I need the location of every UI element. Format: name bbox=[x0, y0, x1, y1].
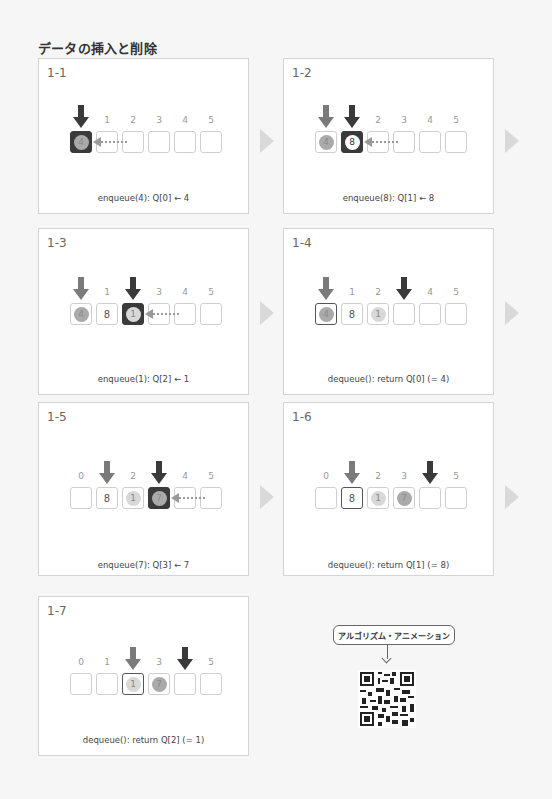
queue-cell: 8 bbox=[341, 131, 363, 153]
step-caption: dequeue(): return Q[2] (= 1) bbox=[39, 735, 248, 745]
queue-cell: 1 bbox=[367, 303, 389, 325]
tail-pointer-arrow-icon bbox=[70, 105, 92, 129]
queue-cell bbox=[200, 303, 222, 325]
head-pointer-arrow-icon bbox=[315, 277, 337, 301]
value-ball: 7 bbox=[152, 491, 167, 506]
queue-cell: 4 bbox=[315, 303, 337, 325]
cell-value: 8 bbox=[104, 493, 110, 504]
step-caption: enqueue(4): Q[0] ← 4 bbox=[39, 193, 248, 203]
queue-array: 011375 bbox=[39, 639, 248, 709]
step-caption: enqueue(1): Q[2] ← 1 bbox=[39, 374, 248, 384]
queue-cell: 1 bbox=[122, 303, 144, 325]
queue-cells: 011375 bbox=[70, 639, 226, 709]
index-label: 2 bbox=[367, 115, 389, 125]
queue-cell: 4 bbox=[70, 131, 92, 153]
value-ball: 1 bbox=[126, 307, 141, 322]
head-pointer-arrow-icon bbox=[70, 277, 92, 301]
queue-cell: 1 bbox=[122, 673, 144, 695]
step-id: 1-7 bbox=[47, 604, 67, 618]
value-ball: 4 bbox=[319, 307, 334, 322]
step-caption: dequeue(): return Q[0] (= 4) bbox=[284, 374, 493, 384]
queue-cell: 1 bbox=[367, 487, 389, 509]
cell-value: 8 bbox=[104, 309, 110, 320]
queue-cell: 8 bbox=[96, 303, 118, 325]
step-caption: enqueue(7): Q[3] ← 7 bbox=[39, 560, 248, 570]
queue-cell: 7 bbox=[148, 673, 170, 695]
queue-cell: 4 bbox=[70, 303, 92, 325]
index-label: 5 bbox=[445, 115, 467, 125]
queue-cell: 7 bbox=[148, 487, 170, 509]
step-id: 1-4 bbox=[292, 236, 312, 250]
tail-pointer-arrow-icon bbox=[122, 277, 144, 301]
qr-code[interactable] bbox=[358, 670, 416, 728]
queue-cells: 0821745 bbox=[70, 453, 226, 523]
insert-arrow-head-icon bbox=[93, 137, 101, 147]
value-ball: 4 bbox=[319, 135, 334, 150]
cell-value: 8 bbox=[349, 309, 355, 320]
index-label: 3 bbox=[148, 657, 170, 667]
step-id: 1-5 bbox=[47, 410, 67, 424]
insert-arrow-head-icon bbox=[171, 493, 179, 503]
tail-pointer-arrow-icon bbox=[341, 105, 363, 129]
step-panel: 1-34181345enqueue(1): Q[2] ← 1 bbox=[38, 228, 249, 395]
step-panel: 1-7011375dequeue(): return Q[2] (= 1) bbox=[38, 596, 249, 756]
value-ball: 8 bbox=[345, 135, 360, 150]
tail-pointer-arrow-icon bbox=[174, 647, 196, 671]
value-ball: 1 bbox=[371, 307, 386, 322]
queue-cell bbox=[445, 131, 467, 153]
index-label: 5 bbox=[200, 657, 222, 667]
index-label: 3 bbox=[393, 115, 415, 125]
queue-cell bbox=[174, 673, 196, 695]
head-pointer-arrow-icon bbox=[122, 647, 144, 671]
value-ball: 7 bbox=[397, 491, 412, 506]
index-label: 0 bbox=[70, 657, 92, 667]
queue-cell bbox=[315, 487, 337, 509]
queue-cell bbox=[393, 303, 415, 325]
next-step-arrow-icon bbox=[505, 301, 519, 325]
queue-cells: 482345 bbox=[315, 97, 471, 167]
queue-cell: 8 bbox=[341, 303, 363, 325]
queue-cells: 4182145 bbox=[315, 269, 471, 339]
index-label: 2 bbox=[122, 471, 144, 481]
index-label: 1 bbox=[341, 287, 363, 297]
step-caption: enqueue(8): Q[1] ← 8 bbox=[284, 193, 493, 203]
queue-cell bbox=[174, 131, 196, 153]
insert-arrow-head-icon bbox=[364, 137, 372, 147]
queue-cell: 1 bbox=[122, 487, 144, 509]
index-label: 2 bbox=[367, 471, 389, 481]
insert-dotted-line bbox=[101, 141, 127, 143]
index-label: 2 bbox=[367, 287, 389, 297]
queue-cell bbox=[445, 487, 467, 509]
next-step-arrow-icon bbox=[260, 129, 274, 153]
queue-cell bbox=[419, 303, 441, 325]
index-label: 5 bbox=[445, 471, 467, 481]
tail-pointer-arrow-icon bbox=[393, 277, 415, 301]
index-label: 5 bbox=[445, 287, 467, 297]
head-pointer-arrow-icon bbox=[315, 105, 337, 129]
index-label: 4 bbox=[174, 115, 196, 125]
queue-cell bbox=[70, 487, 92, 509]
queue-cell bbox=[419, 487, 441, 509]
step-panel: 1-60821375dequeue(): return Q[1] (= 8) bbox=[283, 402, 494, 576]
next-step-arrow-icon bbox=[260, 485, 274, 509]
insert-dotted-line bbox=[372, 141, 398, 143]
step-caption: dequeue(): return Q[1] (= 8) bbox=[284, 560, 493, 570]
index-label: 1 bbox=[96, 657, 118, 667]
index-label: 0 bbox=[70, 471, 92, 481]
value-ball: 4 bbox=[74, 135, 89, 150]
step-panel: 1-2482345enqueue(8): Q[1] ← 8 bbox=[283, 58, 494, 214]
index-label: 3 bbox=[148, 115, 170, 125]
tail-pointer-arrow-icon bbox=[148, 461, 170, 485]
step-id: 1-6 bbox=[292, 410, 312, 424]
step-id: 1-1 bbox=[47, 66, 67, 80]
index-label: 1 bbox=[96, 115, 118, 125]
queue-cell: 8 bbox=[96, 487, 118, 509]
animation-link-label[interactable]: アルゴリズム・アニメーション bbox=[333, 625, 455, 645]
index-label: 5 bbox=[200, 115, 222, 125]
index-label: 3 bbox=[148, 287, 170, 297]
index-label: 4 bbox=[174, 287, 196, 297]
value-ball: 4 bbox=[74, 307, 89, 322]
qr-code-icon bbox=[358, 670, 416, 728]
queue-array: 0821745 bbox=[39, 453, 248, 523]
next-step-arrow-icon bbox=[260, 301, 274, 325]
